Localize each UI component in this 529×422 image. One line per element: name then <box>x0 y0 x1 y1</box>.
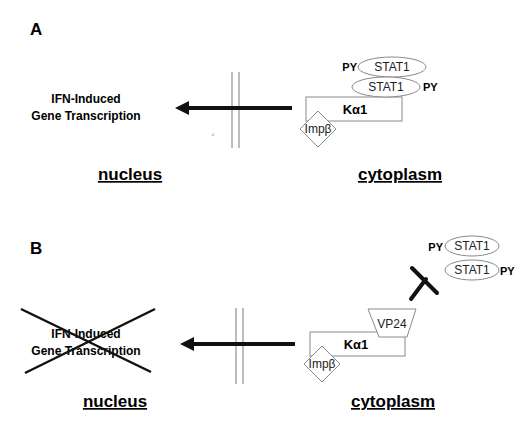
gene-transcription-line2-b: Gene Transcription <box>31 344 140 358</box>
artifact-mark <box>211 132 214 136</box>
vp24-label: VP24 <box>377 317 407 331</box>
karyopherin-label-b: Kα1 <box>344 337 369 352</box>
panel-label-a: A <box>30 20 42 39</box>
gene-transcription-line1-a: IFN-Induced <box>51 92 120 106</box>
cytoplasm-label-a: cytoplasm <box>358 165 442 184</box>
py-label-bottom-b: PY <box>500 265 515 277</box>
py-label-top-b: PY <box>428 241 443 253</box>
arrowhead-icon-a <box>175 101 189 115</box>
panel-a: A IFN-Induced Gene Transcription Kα1 Imp… <box>30 20 442 184</box>
nucleus-label-b: nucleus <box>83 392 147 411</box>
py-label-bottom-a: PY <box>423 81 438 93</box>
karyopherin-label-a: Kα1 <box>343 102 368 117</box>
importin-label-b: Impβ <box>309 357 336 371</box>
stat1-bottom-label-a: STAT1 <box>368 80 404 94</box>
gene-transcription-line2-a: Gene Transcription <box>31 109 140 123</box>
py-label-top-a: PY <box>342 61 357 73</box>
inhibition-bar-icon <box>412 268 437 293</box>
cross-out-line1 <box>21 309 151 372</box>
stat1-top-label-b: STAT1 <box>454 239 490 253</box>
diagram-canvas: A IFN-Induced Gene Transcription Kα1 Imp… <box>0 0 529 422</box>
importin-label-a: Impβ <box>305 122 332 136</box>
panel-b: B IFN-Induced Gene Transcription Kα1 VP2… <box>21 236 515 411</box>
panel-label-b: B <box>30 239 42 258</box>
stat1-bottom-label-b: STAT1 <box>454 263 490 277</box>
cytoplasm-label-b: cytoplasm <box>351 392 435 411</box>
arrowhead-icon-b <box>180 337 194 351</box>
nucleus-label-a: nucleus <box>98 165 162 184</box>
stat1-top-label-a: STAT1 <box>374 60 410 74</box>
